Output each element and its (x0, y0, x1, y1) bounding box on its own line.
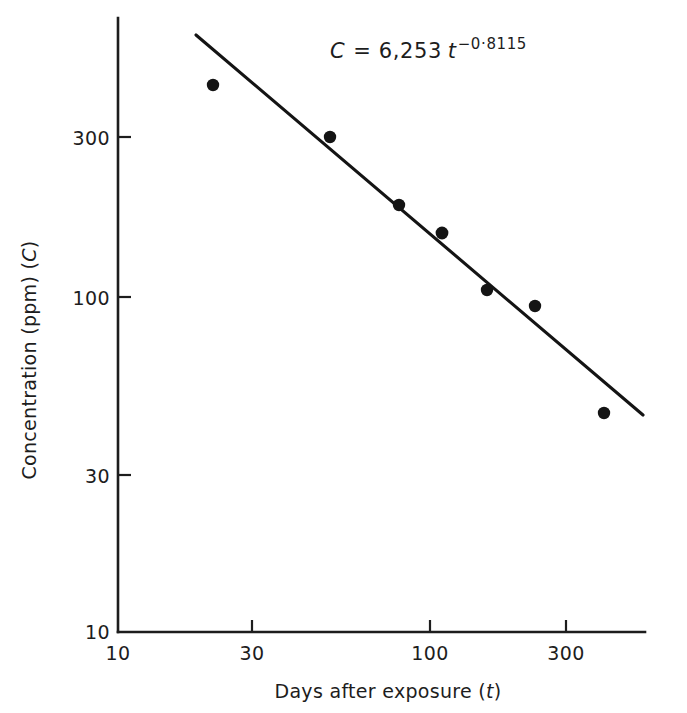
y-axis-title-close: ) (18, 241, 40, 249)
equation-lhs: C (330, 39, 345, 63)
data-point (529, 300, 541, 312)
chart-figure: 300 100 30 10 10 30 100 300 Days after e… (0, 0, 687, 713)
data-point (436, 227, 449, 240)
data-point (598, 407, 610, 419)
plot-background (0, 0, 687, 713)
x-tick-label-10: 10 (106, 642, 131, 664)
y-axis-title: Concentration (ppm) (C) (18, 241, 40, 480)
equation-exponent: −0·8115 (458, 35, 527, 53)
y-axis-title-main: Concentration (ppm) ( (18, 262, 40, 480)
equation-variable: t (448, 39, 457, 63)
equation-rhs-coefficient: = 6,253 (353, 39, 442, 63)
y-tick-label-30: 30 (85, 465, 110, 487)
x-tick-label-30: 30 (240, 642, 265, 664)
y-tick-label-300: 300 (73, 127, 110, 149)
x-tick-label-100: 100 (411, 642, 448, 664)
data-point (481, 284, 493, 296)
x-axis-title-main: Days after exposure ( (275, 680, 487, 702)
x-axis-title: Days after exposure (t) (275, 680, 502, 702)
y-tick-label-10: 10 (85, 621, 110, 643)
x-axis-title-close: ) (494, 680, 502, 702)
data-point (324, 131, 336, 143)
data-point (393, 199, 405, 211)
y-axis-title-variable: C (18, 248, 40, 262)
data-point (207, 79, 219, 91)
scatter-plot-loglog: 300 100 30 10 10 30 100 300 Days after e… (0, 0, 687, 713)
y-tick-label-100: 100 (73, 287, 110, 309)
x-tick-label-300: 300 (547, 642, 584, 664)
